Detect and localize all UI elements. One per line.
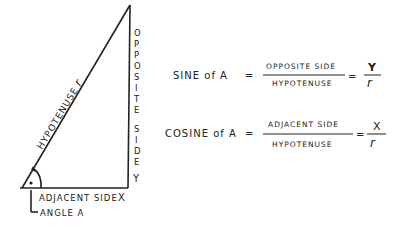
svg-text:O: O [134,61,142,71]
sine-lhs: SINE of A [173,70,228,81]
svg-text:S: S [134,124,140,134]
cosine-equals: = [245,128,254,139]
svg-text:E: E [134,105,140,115]
hypotenuse-label: HYPOTENUSE [35,85,80,151]
sine-numerator: OPPOSITE SIDE [266,62,336,71]
cosine-equals-2: = [356,129,365,140]
svg-text:O: O [134,28,142,38]
angle-dot [29,181,32,184]
cosine-numerator: ADJACENT SIDE [268,120,339,129]
sine-equals: = [245,70,254,81]
svg-text:P: P [134,50,140,60]
svg-text:S: S [134,72,140,82]
sine-var-den: r [367,76,373,90]
right-triangle-diagram: HYPOTENUSE r O P P O S I T E S I D E Y A… [0,0,405,234]
angle-label: ANGLE A [40,208,84,218]
svg-text:E: E [134,157,140,167]
cosine-var-num: X [373,120,382,133]
sine-denominator: HYPOTENUSE [272,79,333,88]
triangle [20,5,130,212]
cosine-lhs: COSINE of A [165,128,237,139]
cosine-var-den: r [370,136,376,150]
svg-text:T: T [133,94,140,104]
opposite-var: Y [132,173,140,184]
svg-text:I: I [135,83,139,93]
opposite-side-line [128,5,130,188]
adjacent-label: ADJACENT SIDE [39,193,118,203]
angle-arc [34,169,41,188]
sine-var-num: Y [367,61,377,74]
sine-formula: SINE of A = OPPOSITE SIDE HYPOTENUSE = Y… [173,61,381,90]
opposite-label: O P P O S I T E S I D E [133,28,142,167]
cosine-formula: COSINE of A = ADJACENT SIDE HYPOTENUSE =… [165,120,386,150]
sine-equals-2: = [348,71,357,82]
cosine-denominator: HYPOTENUSE [272,140,333,149]
svg-text:P: P [134,39,140,49]
svg-text:D: D [134,146,142,156]
svg-text:I: I [135,135,139,145]
adjacent-var: X [118,192,126,203]
